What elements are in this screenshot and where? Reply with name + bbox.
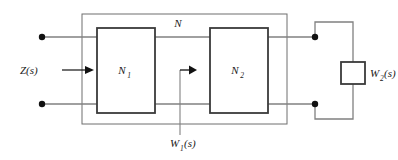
label-block-n1-subscript: 1 (127, 71, 131, 80)
label-input-impedance: Z(s) (20, 64, 38, 77)
label-w1-argument: (s) (184, 137, 196, 150)
label-outer-network: N (173, 17, 182, 29)
wire-load-loop-bottom (315, 84, 353, 119)
circuit-svg: Z(s) N N 1 N 2 W 1 (s) W 2 (s) (0, 0, 398, 160)
terminal-dot-input-top (39, 34, 45, 40)
label-load-w2: W 2 (s) (370, 67, 396, 83)
terminal-dot-input-bottom (39, 101, 45, 107)
block-w2-load (341, 62, 365, 84)
terminal-dot-output-top (312, 34, 318, 40)
label-block-n1-base: N (117, 64, 126, 76)
block-n2 (210, 28, 268, 113)
block-n1 (97, 28, 155, 113)
terminal-dot-output-bottom (312, 101, 318, 107)
label-block-n2-base: N (230, 64, 239, 76)
wire-load-loop-top (315, 22, 353, 62)
label-w2-argument: (s) (384, 67, 396, 80)
label-w2-base: W (370, 67, 380, 79)
z-arrow-icon (85, 66, 94, 74)
label-internal-signal-w1: W 1 (s) (170, 137, 196, 153)
label-w1-base: W (170, 137, 180, 149)
w1-arrow-icon (189, 66, 197, 75)
circuit-diagram-root: Z(s) N N 1 N 2 W 1 (s) W 2 (s) (0, 0, 398, 160)
label-block-n2-subscript: 2 (240, 71, 244, 80)
